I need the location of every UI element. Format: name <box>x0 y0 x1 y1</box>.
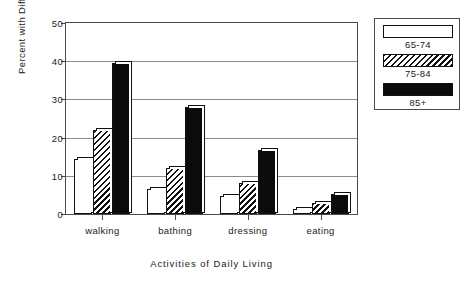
y-tick-label: 40 <box>52 56 63 67</box>
bar-group-walking <box>74 23 130 214</box>
bar-walking-85+[interactable] <box>112 63 130 214</box>
x-tick-label-walking: walking <box>85 225 119 236</box>
plot-area: 01020304050 walkingbathingdressingeating <box>65 22 358 215</box>
bar-group-dressing <box>220 23 276 214</box>
legend-swatch-85plus <box>383 83 453 96</box>
legend-entry-0[interactable]: 65-74 <box>383 25 453 50</box>
legend-swatch-75-84 <box>383 54 453 67</box>
bar-bathing-75-84[interactable] <box>166 168 184 214</box>
y-tick-label: 30 <box>52 94 63 105</box>
legend-label-75-84: 75-84 <box>383 68 453 79</box>
bar-bathing-85+[interactable] <box>185 107 203 214</box>
x-axis-title: Activities of Daily Living <box>65 258 358 269</box>
bar-dressing-75-84[interactable] <box>239 183 257 214</box>
legend-entry-2[interactable]: 85+ <box>383 83 453 108</box>
x-tick-mark <box>175 214 176 220</box>
bar-eating-65-74[interactable] <box>293 209 311 214</box>
legend: 65-74 75-84 85+ <box>374 18 460 110</box>
bar-group-eating <box>293 23 349 214</box>
bar-bathing-65-74[interactable] <box>147 189 165 214</box>
bar-dressing-85+[interactable] <box>258 150 276 214</box>
x-tick-label-dressing: dressing <box>228 225 267 236</box>
y-tick-label: 50 <box>52 18 63 29</box>
bar-eating-75-84[interactable] <box>312 203 330 214</box>
x-tick-label-eating: eating <box>306 225 334 236</box>
y-axis-title: Percent with Difficulty <box>16 0 32 74</box>
bar-side-face <box>129 61 132 213</box>
x-tick-mark <box>321 214 322 220</box>
bar-walking-65-74[interactable] <box>74 159 92 214</box>
x-tick-label-bathing: bathing <box>158 225 192 236</box>
bar-dressing-65-74[interactable] <box>220 196 238 214</box>
legend-label-65-74: 65-74 <box>383 39 453 50</box>
y-tick-label: 10 <box>52 170 63 181</box>
y-tick-label: 20 <box>52 132 63 143</box>
y-tick-group: 0 <box>66 214 67 215</box>
bar-side-face <box>275 148 278 213</box>
legend-entry-1[interactable]: 75-84 <box>383 54 453 79</box>
bar-walking-75-84[interactable] <box>93 130 111 214</box>
y-tick-label: 0 <box>57 209 63 220</box>
legend-swatch-65-74 <box>383 25 453 38</box>
bar-group-bathing <box>147 23 203 214</box>
bar-side-face <box>348 192 351 213</box>
x-tick-mark <box>102 214 103 220</box>
bar-side-face <box>202 105 205 213</box>
legend-label-85plus: 85+ <box>383 97 453 108</box>
bars-layer: walkingbathingdressingeating <box>66 23 357 214</box>
x-tick-mark <box>248 214 249 220</box>
bar-eating-85+[interactable] <box>331 194 349 214</box>
bar-chart-figure: Percent with Difficulty 01020304050 walk… <box>0 0 468 295</box>
